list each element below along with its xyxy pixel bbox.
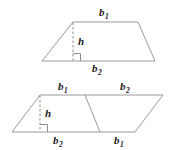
geometry-diagram: b1 h b2 b1 b2 h b2 b1 (0, 0, 174, 150)
parallelogram-top-right-label: b2 (120, 80, 130, 95)
parallelogram-shape: b1 b2 h b2 b1 (12, 80, 163, 149)
geometry-figure-container: b1 h b2 b1 b2 h b2 b1 (0, 0, 174, 150)
trapezoid-fill (42, 22, 155, 61)
parallelogram-bottom-left-label: b2 (53, 134, 63, 149)
parallelogram-bottom-right-label: b1 (114, 134, 124, 149)
parallelogram-top-left-label: b1 (58, 80, 68, 95)
trapezoid-top-base-label: b1 (99, 6, 109, 21)
parallelogram-height-label: h (45, 107, 51, 119)
trapezoid-shape: b1 h b2 (42, 6, 155, 77)
trapezoid-height-label: h (78, 35, 84, 47)
trapezoid-bottom-base-label: b2 (92, 62, 102, 77)
